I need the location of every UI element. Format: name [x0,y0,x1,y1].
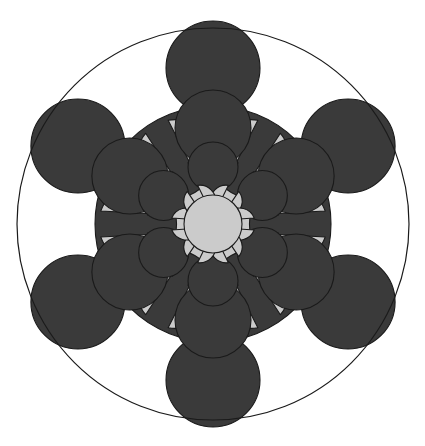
ring-inner-dark-node-0 [188,142,238,192]
ring-inner-dark-node-3 [188,256,238,306]
figure-svg [0,0,425,446]
center-disc-layer [184,195,242,253]
center-light-disc [184,195,242,253]
figure-canvas [0,0,425,446]
